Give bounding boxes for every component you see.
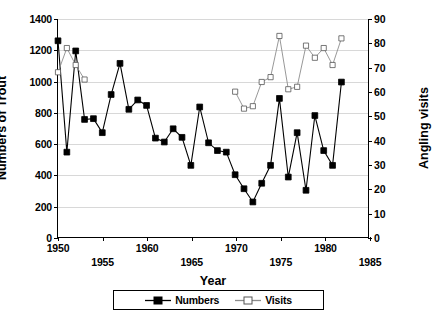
data-point-marker — [303, 43, 308, 48]
y-axis-left-tick-label: 600 — [35, 138, 58, 150]
x-axis-tick-label: 1980 — [314, 242, 337, 254]
data-point-marker — [330, 62, 335, 67]
y-axis-left-tick-label: 1000 — [29, 76, 58, 88]
y-axis-right-tick-label: 80 — [368, 37, 385, 49]
data-point-marker — [339, 36, 344, 41]
y-axis-left-tick-label: 1200 — [29, 44, 58, 56]
series-visits — [55, 33, 344, 111]
data-point-marker — [215, 148, 221, 154]
series-line — [58, 48, 85, 79]
data-point-marker — [259, 180, 265, 186]
legend-item-visits: Visits — [235, 294, 292, 306]
data-point-marker — [277, 33, 282, 38]
data-point-marker — [91, 116, 97, 122]
data-point-marker — [285, 174, 291, 180]
data-point-marker — [223, 149, 229, 155]
data-point-marker — [339, 79, 345, 85]
data-point-marker — [241, 106, 246, 111]
data-point-marker — [153, 135, 159, 141]
y-axis-right-tick-label: 70 — [368, 62, 385, 74]
series-line — [58, 41, 341, 202]
y-axis-left-tick-label: 800 — [35, 107, 58, 119]
legend-label-numbers: Numbers — [175, 294, 219, 306]
data-point-marker — [294, 130, 300, 136]
y-axis-left-tick-label: 400 — [35, 169, 58, 181]
data-series-layer — [58, 19, 368, 237]
data-point-marker — [73, 48, 79, 54]
data-point-marker — [126, 106, 132, 112]
x-axis-tick-label: 1965 — [180, 256, 203, 268]
y-axis-right-tick-label: 40 — [368, 135, 385, 147]
y-axis-right-tick-label: 10 — [368, 208, 385, 220]
series-numbers — [55, 38, 344, 205]
y-axis-right-tick-label: 90 — [368, 13, 385, 25]
data-point-marker — [250, 199, 256, 205]
x-axis-tick-label: 1985 — [359, 256, 382, 268]
x-axis-tick-mark — [192, 237, 193, 241]
y-axis-right-title: Angling visits — [417, 87, 431, 169]
y-axis-left-tick-label: 200 — [35, 201, 58, 213]
x-axis-title: Year — [200, 274, 226, 288]
x-axis-tick-mark — [325, 237, 326, 241]
data-point-marker — [312, 113, 318, 119]
data-point-marker — [170, 126, 176, 132]
x-axis-tick-label: 1960 — [136, 242, 159, 254]
legend-label-visits: Visits — [265, 294, 292, 306]
y-axis-right-tick-label: 20 — [368, 183, 385, 195]
plot-area: 0200400600800100012001400 01020304050607… — [57, 19, 369, 238]
data-point-marker — [161, 139, 167, 145]
data-point-marker — [295, 84, 300, 89]
data-point-marker — [82, 77, 87, 82]
data-point-marker — [108, 92, 114, 98]
data-point-marker — [277, 96, 283, 102]
data-point-marker — [99, 130, 105, 136]
chart-legend: Numbers Visits — [113, 290, 324, 310]
x-axis-tick-label: 1955 — [91, 256, 114, 268]
x-axis-tick-mark — [103, 237, 104, 241]
data-point-marker — [321, 45, 326, 50]
data-point-marker — [312, 55, 317, 60]
x-axis-tick-mark — [370, 237, 371, 241]
y-axis-right-tick-label: 50 — [368, 110, 385, 122]
data-point-marker — [64, 149, 70, 155]
y-axis-right-tick-label: 30 — [368, 159, 385, 171]
data-point-marker — [241, 186, 247, 192]
y-axis-left-title: Numbers of Trout — [0, 76, 9, 180]
data-point-marker — [232, 172, 238, 178]
data-point-marker — [268, 75, 273, 80]
x-axis-tick-label: 1950 — [47, 242, 70, 254]
x-axis-tick-label: 1970 — [225, 242, 248, 254]
data-point-marker — [73, 62, 78, 67]
data-point-marker — [197, 104, 203, 110]
data-point-marker — [117, 60, 123, 66]
x-axis-tick-label: 1975 — [270, 256, 293, 268]
data-point-marker — [206, 140, 212, 146]
data-point-marker — [233, 89, 238, 94]
x-axis-tick-mark — [236, 237, 237, 241]
y-axis-right-tick-label: 60 — [368, 86, 385, 98]
x-axis-tick-mark — [281, 237, 282, 241]
x-axis-tick-mark — [58, 237, 59, 241]
legend-item-numbers: Numbers — [145, 294, 219, 306]
data-point-marker — [250, 104, 255, 109]
open-square-icon — [235, 295, 261, 306]
data-point-marker — [268, 162, 274, 168]
data-point-marker — [135, 97, 141, 103]
data-point-marker — [321, 148, 327, 154]
x-axis-tick-mark — [147, 237, 148, 241]
data-point-marker — [303, 187, 309, 193]
y-axis-left-tick-label: 1400 — [29, 13, 58, 25]
chart-figure: Numbers of Trout Angling visits Year 020… — [0, 0, 437, 319]
data-point-marker — [55, 70, 60, 75]
data-point-marker — [82, 117, 88, 123]
data-point-marker — [144, 103, 150, 109]
data-point-marker — [179, 134, 185, 140]
data-point-marker — [286, 87, 291, 92]
data-point-marker — [330, 162, 336, 168]
data-point-marker — [64, 45, 69, 50]
data-point-marker — [259, 79, 264, 84]
data-point-marker — [188, 162, 194, 168]
filled-square-icon — [145, 295, 171, 306]
data-point-marker — [55, 38, 61, 44]
